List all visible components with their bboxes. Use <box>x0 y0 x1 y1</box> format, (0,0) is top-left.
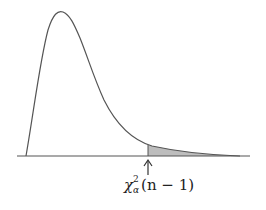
critical-value-label: χ2α(n − 1) <box>124 176 194 194</box>
degrees-of-freedom: (n − 1) <box>141 176 194 194</box>
chi-symbol: χ <box>124 176 133 194</box>
density-curve <box>26 12 240 156</box>
right-tail-shaded-region <box>148 145 240 156</box>
subscript-alpha: α <box>133 185 139 195</box>
superscript: 2 <box>133 174 139 184</box>
up-arrow-icon <box>144 160 152 175</box>
